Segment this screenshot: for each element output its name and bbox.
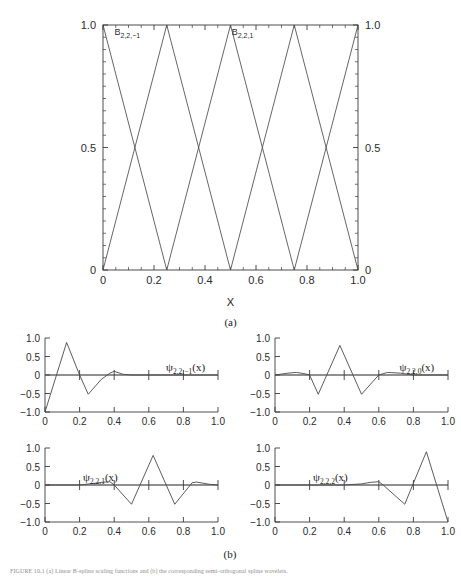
subplot-function-label: ψ2,2,2(x) xyxy=(313,471,348,486)
tick-label: −1.0 xyxy=(250,517,270,528)
tick-label: 0.4 xyxy=(107,416,121,427)
tick-label: 1.0 xyxy=(256,443,270,454)
panel-a-xlabel: X xyxy=(227,296,235,308)
tick-label: 0 xyxy=(42,416,48,427)
tick-label: 0.5 xyxy=(81,142,96,154)
panel-b-charts: −1.0−0.500.51.000.20.40.60.81.0ψ2,2,−1(x… xyxy=(0,330,461,570)
tick-label: 1.0 xyxy=(211,416,225,427)
tick-label: 0.5 xyxy=(26,352,40,363)
tick-label: −0.5 xyxy=(20,389,40,400)
tick-label: 0.2 xyxy=(146,274,161,286)
tick-label: 0.4 xyxy=(337,416,351,427)
tick-label: 0.8 xyxy=(406,526,420,537)
subplot-3: −1.0−0.500.51.000.20.40.60.81.0ψ2,2,1(x) xyxy=(20,443,225,537)
tick-label: 0.2 xyxy=(73,526,87,537)
tick-label: 0 xyxy=(90,264,96,276)
panel-a-axes: 00.20.40.60.81.0000.50.51.01.0 xyxy=(81,19,381,286)
plot-frame xyxy=(103,25,358,270)
tick-label: 0.4 xyxy=(337,526,351,537)
tick-label: 0.6 xyxy=(142,526,156,537)
figure-caption: FIGURE 10.1 (a) Linear B-spline scaling … xyxy=(10,568,455,576)
panel-a-chart: 00.20.40.60.81.0000.50.51.01.0B2,2,−1B2,… xyxy=(0,0,461,330)
tick-label: 0.8 xyxy=(176,416,190,427)
tick-label: 0 xyxy=(264,370,270,381)
tick-label: 1.0 xyxy=(441,416,455,427)
tick-label: 1.0 xyxy=(211,526,225,537)
tick-label: 0.6 xyxy=(372,526,386,537)
panel-b-label: (b) xyxy=(224,548,237,561)
subplot-function-label: ψ2,2,−1(x) xyxy=(166,361,205,376)
tick-label: 0.6 xyxy=(142,416,156,427)
data-curve xyxy=(167,25,295,270)
tick-label: 0.5 xyxy=(365,142,380,154)
tick-label: 0.6 xyxy=(248,274,263,286)
subplot-1: −1.0−0.500.51.000.20.40.60.81.0ψ2,2,−1(x… xyxy=(20,333,225,427)
data-curve xyxy=(45,342,218,412)
tick-label: 0 xyxy=(100,274,106,286)
tick-label: −0.5 xyxy=(250,389,270,400)
data-curve xyxy=(45,455,218,504)
tick-label: 0 xyxy=(34,370,40,381)
tick-label: 0.2 xyxy=(303,416,317,427)
tick-label: 0.4 xyxy=(197,274,212,286)
panel-a-series xyxy=(103,25,358,270)
tick-label: 0.8 xyxy=(406,416,420,427)
figure-root: 00.20.40.60.81.0000.50.51.01.0B2,2,−1B2,… xyxy=(0,0,461,579)
tick-label: 1.0 xyxy=(81,19,96,31)
tick-label: −0.5 xyxy=(20,499,40,510)
tick-label: 1.0 xyxy=(26,333,40,344)
curve-annotation: B2,2,1 xyxy=(232,27,254,39)
tick-label: 1.0 xyxy=(441,526,455,537)
data-curve xyxy=(275,452,448,522)
data-curve xyxy=(231,25,359,270)
tick-label: −0.5 xyxy=(250,499,270,510)
panel-a-annotations: B2,2,−1B2,2,1 xyxy=(114,27,253,39)
tick-label: 0.5 xyxy=(26,462,40,473)
tick-label: 0.6 xyxy=(372,416,386,427)
tick-label: −1.0 xyxy=(20,407,40,418)
tick-label: 0.5 xyxy=(256,462,270,473)
tick-label: 0 xyxy=(264,480,270,491)
tick-label: 0 xyxy=(272,416,278,427)
panel-a-label: (a) xyxy=(224,316,237,329)
tick-label: 1.0 xyxy=(350,274,365,286)
tick-label: −1.0 xyxy=(20,517,40,528)
subplot-2: −1.0−0.500.51.000.20.40.60.81.0ψ2,2,0(x) xyxy=(250,333,455,427)
tick-label: 0 xyxy=(34,480,40,491)
tick-label: 1.0 xyxy=(26,443,40,454)
subplot-4: −1.0−0.500.51.000.20.40.60.81.0ψ2,2,2(x) xyxy=(250,443,455,537)
tick-label: 1.0 xyxy=(365,19,380,31)
tick-label: 0.8 xyxy=(299,274,314,286)
tick-label: 0.2 xyxy=(73,416,87,427)
tick-label: 0 xyxy=(365,264,371,276)
data-curve xyxy=(103,25,231,270)
tick-label: 0 xyxy=(272,526,278,537)
curve-annotation: B2,2,−1 xyxy=(114,27,140,39)
tick-label: 0 xyxy=(42,526,48,537)
tick-label: 0.5 xyxy=(256,352,270,363)
tick-label: 0.4 xyxy=(107,526,121,537)
tick-label: 0.8 xyxy=(176,526,190,537)
tick-label: 0.2 xyxy=(303,526,317,537)
tick-label: 1.0 xyxy=(256,333,270,344)
tick-label: −1.0 xyxy=(250,407,270,418)
